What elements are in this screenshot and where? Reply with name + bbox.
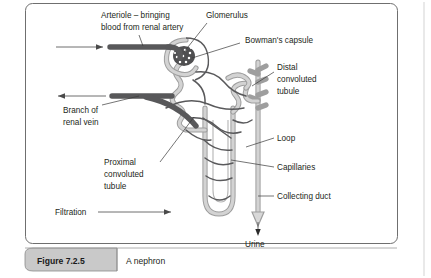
label-glomerulus: Glomerulus <box>206 11 248 20</box>
label-renal-vein-line1: Branch of <box>63 106 99 115</box>
label-distal-line1: Distal <box>277 63 298 72</box>
label-renal-vein-line2: renal vein <box>63 118 99 127</box>
label-arteriole-line2: blood from renal artery <box>101 23 184 32</box>
figure-number-label: Figure 7.2.5 <box>37 256 85 266</box>
figure-panel: Arteriole – bringing blood from renal ar… <box>0 0 431 278</box>
label-arteriole-line1: Arteriole – bringing <box>101 11 170 20</box>
label-collecting-duct: Collecting duct <box>277 192 331 201</box>
label-distal-line2: convoluted <box>277 75 317 84</box>
label-loop: Loop <box>277 134 296 143</box>
label-distal-line3: tubule <box>277 87 300 96</box>
label-proximal-line1: Proximal <box>104 158 136 167</box>
label-proximal-line3: tubule <box>104 182 127 191</box>
label-proximal-line2: convoluted <box>104 170 144 179</box>
label-capillaries: Capillaries <box>277 163 315 172</box>
figure-caption-text: A nephron <box>126 256 165 266</box>
label-bowmans-capsule: Bowman's capsule <box>245 36 313 45</box>
label-filtration: Filtration <box>55 208 87 217</box>
